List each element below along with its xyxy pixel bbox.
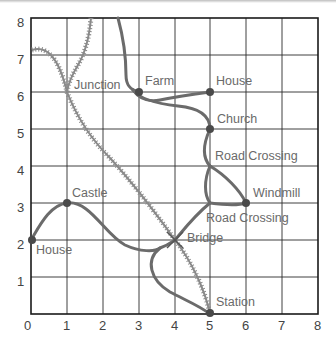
y-tick: 2 <box>17 237 24 252</box>
castle-marker[interactable] <box>63 199 71 207</box>
y-tick: 6 <box>17 89 24 104</box>
x-tick: 3 <box>135 318 142 333</box>
house-west-marker[interactable] <box>28 236 36 244</box>
x-tick: 7 <box>278 318 285 333</box>
house-north-marker[interactable] <box>206 88 214 96</box>
station-label: Station <box>216 295 255 309</box>
y-tick: 4 <box>17 163 24 178</box>
x-tick: 4 <box>171 318 178 333</box>
junction-label: Junction <box>74 78 121 92</box>
house-north-label: House <box>216 74 252 88</box>
church-label: Church <box>217 112 257 126</box>
y-tick: 5 <box>17 126 24 141</box>
y-tick: 3 <box>17 200 24 215</box>
x-tick: 2 <box>99 318 106 333</box>
x-tick: 6 <box>242 318 249 333</box>
church-marker[interactable] <box>206 125 214 133</box>
x-tick: 8 <box>314 318 321 333</box>
x-tick: 0 <box>24 318 31 333</box>
windmill-label: Windmill <box>253 186 300 200</box>
windmill-marker[interactable] <box>242 199 250 207</box>
x-tick: 5 <box>206 318 213 333</box>
bridge-label: Bridge <box>187 231 223 245</box>
x-tick: 1 <box>63 318 70 333</box>
y-tick: 8 <box>17 15 24 30</box>
station-marker[interactable] <box>206 309 214 317</box>
castle-label: Castle <box>72 186 107 200</box>
grid-map: 0 1 2 3 4 5 6 7 8 8 7 6 5 4 3 2 1 <box>0 0 336 342</box>
y-tick: 7 <box>17 52 24 67</box>
house-west-label: House <box>36 243 72 257</box>
y-tick: 1 <box>17 274 24 289</box>
road-crossing-lower-label: Road Crossing <box>206 211 289 225</box>
x-axis: 0 1 2 3 4 5 6 7 8 <box>24 318 321 333</box>
grid-lines <box>31 18 318 314</box>
farm-marker[interactable] <box>135 88 143 96</box>
road-crossing-upper-label: Road Crossing <box>215 149 298 163</box>
farm-label: Farm <box>145 74 174 88</box>
y-axis: 8 7 6 5 4 3 2 1 <box>17 15 24 289</box>
